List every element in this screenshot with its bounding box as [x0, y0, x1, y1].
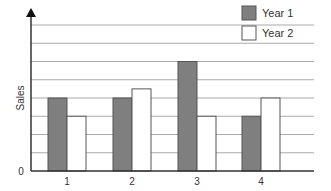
bar-year-1-cat-4 — [242, 116, 261, 171]
x-tick-label: 1 — [64, 176, 70, 187]
x-tick-label: 3 — [194, 176, 200, 187]
legend: Year 1Year 2 — [242, 6, 293, 40]
bar-year-2-cat-4 — [261, 98, 280, 171]
x-tick-label: 4 — [258, 176, 264, 187]
bar-year-1-cat-2 — [113, 98, 132, 171]
y-axis-arrow-icon — [26, 8, 36, 17]
legend-label: Year 1 — [262, 7, 293, 19]
legend-label: Year 2 — [262, 27, 293, 39]
legend-swatch — [242, 26, 256, 40]
x-tick-labels: 1234 — [64, 176, 264, 187]
bar-year-1-cat-1 — [48, 98, 67, 171]
bar-chart: Sales 0 1234 Year 1Year 2 — [0, 0, 331, 191]
bar-year-2-cat-3 — [197, 116, 216, 171]
x-tick-label: 2 — [129, 176, 135, 187]
bar-year-2-cat-1 — [67, 116, 86, 171]
y-tick-zero: 0 — [18, 166, 24, 177]
bar-year-1-cat-3 — [178, 62, 197, 172]
legend-swatch — [242, 6, 256, 20]
y-axis-label: Sales — [15, 85, 26, 110]
bar-year-2-cat-2 — [132, 89, 151, 171]
